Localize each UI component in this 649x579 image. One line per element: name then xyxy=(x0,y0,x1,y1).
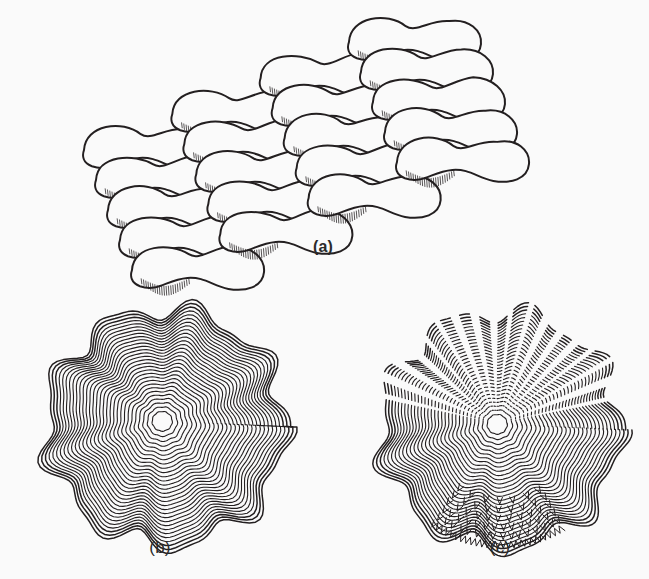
panel-c-caption: (c) xyxy=(460,538,540,558)
panel-b-caption: (b) xyxy=(120,538,200,558)
panel-a-caption: (a) xyxy=(283,238,363,256)
figure-illustration xyxy=(0,0,649,579)
panel-b-drawing xyxy=(38,300,297,554)
figure-plate: (a) (b) (c) xyxy=(0,0,649,579)
panel-c-drawing xyxy=(373,303,632,557)
